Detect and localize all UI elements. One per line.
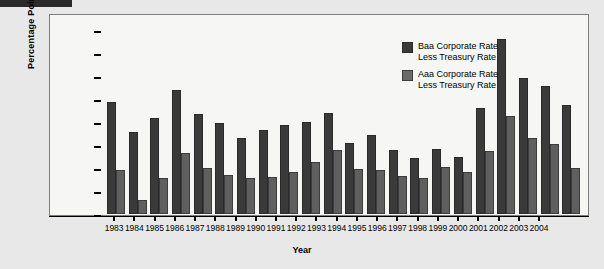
bar-group	[279, 15, 301, 214]
plot-area	[105, 15, 582, 215]
x-tick-mark	[275, 216, 277, 221]
bar-baa-1983	[107, 102, 116, 214]
bar-baa-1994	[345, 143, 354, 214]
y-axis-title: Percentage Points	[26, 0, 36, 69]
legend-label-aaa-line2: Less Treasury Rate	[418, 80, 496, 90]
bar-aaa-1995	[376, 170, 385, 214]
x-tick-mark	[235, 216, 237, 221]
x-tick-mark	[437, 216, 439, 221]
x-tick-label-1994: 1994	[327, 223, 347, 233]
bar-group	[170, 15, 192, 214]
y-tick-mark	[94, 54, 101, 56]
bar-aaa-1983	[116, 170, 125, 214]
x-tick-1988	[205, 216, 225, 222]
x-tick-mark	[518, 216, 520, 221]
y-tick-mark	[94, 192, 101, 194]
x-tick-label-1986: 1986	[165, 223, 185, 233]
x-tick-mark	[174, 216, 176, 221]
plot-frame: Percentage Points 00.51.01.52.02.53.03.5…	[49, 14, 589, 216]
bar-group	[322, 15, 344, 214]
x-tick-label-1984: 1984	[124, 223, 144, 233]
bar-group	[148, 15, 170, 214]
y-tick-mark	[94, 169, 101, 171]
x-tick-label-1987: 1987	[185, 223, 205, 233]
bar-baa-1992	[302, 122, 311, 214]
bar-group	[127, 15, 149, 214]
x-tick-label-1998: 1998	[408, 223, 428, 233]
bar-aaa-1992	[311, 162, 320, 214]
x-tick-label-2001: 2001	[468, 223, 488, 233]
x-tick-mark	[194, 216, 196, 221]
x-axis-tick-marks	[104, 216, 549, 222]
x-tick-mark	[477, 216, 479, 221]
bar-baa-1996	[389, 150, 398, 214]
x-tick-mark	[336, 216, 338, 221]
x-tick-2004	[529, 216, 549, 222]
bar-aaa-1996	[398, 176, 407, 214]
x-tick-label-1983: 1983	[104, 223, 124, 233]
x-tick-label-1997: 1997	[387, 223, 407, 233]
bar-baa-2001	[497, 39, 506, 214]
legend-label-aaa: Aaa Corporate Rate Less Treasury Rate	[418, 69, 498, 90]
bar-baa-1988	[215, 123, 224, 214]
bar-group	[539, 15, 561, 214]
bar-baa-1984	[129, 132, 138, 214]
x-tick-mark	[417, 216, 419, 221]
bar-aaa-1990	[268, 177, 277, 214]
x-axis-title: Year	[0, 245, 604, 255]
x-tick-mark	[356, 216, 358, 221]
x-tick-1998	[408, 216, 428, 222]
bar-baa-1993	[324, 113, 333, 214]
bar-group	[517, 15, 539, 214]
x-tick-label-1991: 1991	[266, 223, 286, 233]
x-tick-mark	[396, 216, 398, 221]
legend-item-aaa: Aaa Corporate Rate Less Treasury Rate	[402, 69, 498, 90]
bar-aaa-1993	[333, 150, 342, 214]
y-tick-mark	[94, 100, 101, 102]
bar-aaa-1991	[289, 172, 298, 214]
bar-baa-1995	[367, 135, 376, 214]
bar-aaa-2000	[485, 151, 494, 214]
x-tick-2000	[448, 216, 468, 222]
x-tick-label-2000: 2000	[448, 223, 468, 233]
top-left-artifact	[0, 0, 72, 7]
legend-swatch-aaa-icon	[402, 70, 413, 81]
x-tick-2003	[509, 216, 529, 222]
x-tick-mark	[255, 216, 257, 221]
bar-group	[560, 15, 582, 214]
bar-aaa-1984	[138, 200, 147, 214]
x-tick-1984	[124, 216, 144, 222]
bar-baa-1998	[432, 149, 441, 214]
bar-baa-1997	[410, 158, 419, 214]
x-tick-label-1996: 1996	[367, 223, 387, 233]
x-tick-mark	[376, 216, 378, 221]
x-tick-1993	[306, 216, 326, 222]
x-tick-mark	[214, 216, 216, 221]
bar-baa-1999	[454, 157, 463, 214]
x-tick-label-1989: 1989	[225, 223, 245, 233]
x-tick-mark	[498, 216, 500, 221]
bar-baa-2004	[562, 105, 571, 214]
x-tick-1985	[144, 216, 164, 222]
x-tick-1987	[185, 216, 205, 222]
bar-aaa-1986	[181, 153, 190, 214]
x-tick-label-1992: 1992	[286, 223, 306, 233]
bar-group	[300, 15, 322, 214]
x-tick-1996	[367, 216, 387, 222]
legend-label-baa-line1: Baa Corporate Rate	[418, 41, 498, 51]
x-tick-1992	[286, 216, 306, 222]
x-tick-1990	[246, 216, 266, 222]
x-tick-label-1995: 1995	[347, 223, 367, 233]
x-tick-mark	[457, 216, 459, 221]
x-tick-label-2003: 2003	[509, 223, 529, 233]
bar-group	[257, 15, 279, 214]
x-tick-2002	[488, 216, 508, 222]
bar-aaa-2001	[506, 116, 515, 214]
bar-aaa-1994	[354, 169, 363, 214]
bar-aaa-2004	[571, 168, 580, 214]
bar-aaa-2002	[528, 138, 537, 214]
bar-baa-1986	[172, 90, 181, 214]
bar-aaa-2003	[550, 144, 559, 214]
bar-group	[105, 15, 127, 214]
bar-aaa-1989	[246, 178, 255, 214]
